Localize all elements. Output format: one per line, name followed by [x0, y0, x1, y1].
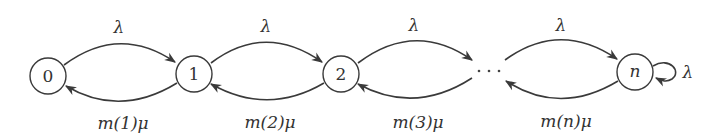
edge-2-to-dots: [358, 41, 472, 63]
rate-label-lambda-0-1: λ: [113, 17, 125, 37]
edge-2-to-1: [211, 83, 324, 100]
rate-label-lambda-dots-n: λ: [555, 15, 567, 35]
edge-0-to-1: [64, 44, 175, 65]
ellipsis-dot: [498, 70, 501, 73]
state-label: n: [630, 61, 641, 81]
state-node-1: 1: [176, 56, 212, 92]
rate-label-mu-2: m(2)μ: [244, 112, 295, 132]
edge-1-to-2: [211, 42, 322, 63]
edge-dots-to-n: [505, 40, 617, 60]
state-node-2: 2: [323, 56, 359, 92]
ellipsis-dot: [488, 70, 491, 73]
state-node-0: 0: [30, 58, 66, 94]
ellipsis-dot: [478, 70, 481, 73]
state-node-n: n: [617, 54, 653, 90]
rate-label-mu-3: m(3)μ: [392, 112, 443, 132]
rate-label-mu-n: m(n)μ: [540, 111, 591, 131]
edge-1-to-0: [66, 83, 177, 101]
state-label: 2: [336, 64, 347, 84]
rate-label-lambda-self-n: λ: [682, 62, 694, 82]
ellipsis: [478, 70, 501, 73]
state-label: 0: [43, 66, 54, 86]
markov-chain-diagram: 0 1 2 n λ λ λ λ λ m(1)μ m(2)μ m(3)μ m(n)…: [0, 0, 721, 140]
rate-label-mu-1: m(1)μ: [97, 113, 148, 133]
edge-n-to-dots: [506, 81, 618, 99]
rate-label-lambda-1-2: λ: [260, 16, 272, 36]
rate-label-lambda-2-dots: λ: [408, 15, 420, 35]
self-loop-n: [653, 63, 676, 81]
edge-dots-to-2: [358, 78, 472, 98]
state-label: 1: [189, 64, 200, 84]
